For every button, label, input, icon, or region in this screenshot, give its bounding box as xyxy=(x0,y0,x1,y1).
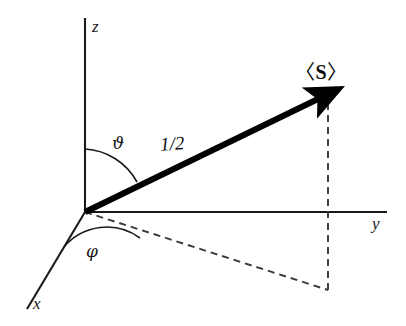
bracket-open-glyph: 〈 xyxy=(295,61,316,83)
vector-magnitude-label: 1/2 xyxy=(159,133,185,154)
axis-label-z: z xyxy=(92,18,99,35)
bracket-close-glyph: 〉 xyxy=(327,61,348,83)
spin-symbol-s: S xyxy=(316,61,328,83)
axis-label-y: y xyxy=(372,215,380,232)
axis-label-x: x xyxy=(33,295,41,312)
spin-vector-label: 〈S〉 xyxy=(295,62,348,82)
dashed-ground-projection xyxy=(85,212,328,290)
spin-vector-arrow xyxy=(85,99,318,212)
angle-label-theta: ϑ xyxy=(112,135,124,152)
spin-vector-figure: z y x ϑ φ 1/2 〈S〉 xyxy=(0,0,406,326)
figure-canvas xyxy=(0,0,406,326)
angle-arc-theta xyxy=(85,149,137,182)
angle-label-phi: φ xyxy=(86,243,98,260)
